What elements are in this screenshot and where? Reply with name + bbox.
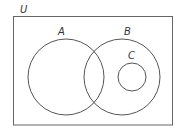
universe-label: U — [20, 4, 28, 15]
set-a-label: A — [57, 26, 65, 37]
set-c-circle — [118, 63, 146, 91]
set-a-circle — [28, 39, 104, 115]
venn-diagram: U A B C — [0, 0, 179, 133]
set-c-label: C — [128, 50, 135, 61]
set-b-circle — [84, 39, 160, 115]
set-b-label: B — [124, 26, 131, 37]
universe-rectangle — [14, 17, 173, 126]
